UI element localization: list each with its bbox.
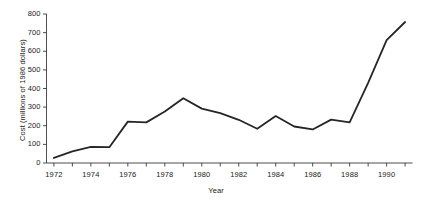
- x-tick-label: 1990: [376, 170, 398, 179]
- y-tick-label: 200: [28, 121, 41, 130]
- x-tick-label: 1974: [80, 170, 102, 179]
- x-tick-label: 1982: [228, 170, 250, 179]
- chart-container: 0100200300400500600700800197219741976197…: [0, 0, 432, 205]
- x-axis-title: Year: [0, 186, 432, 195]
- x-tick-label: 1978: [154, 170, 176, 179]
- y-tick-label: 100: [28, 139, 41, 148]
- y-tick-label: 600: [28, 46, 41, 55]
- y-axis-title: Cost (millions of 1986 dollars): [18, 39, 27, 141]
- x-tick-label: 1976: [117, 170, 139, 179]
- x-tick-label: 1988: [339, 170, 361, 179]
- y-tick-label: 500: [28, 65, 41, 74]
- y-tick-label: 700: [28, 28, 41, 37]
- x-tick-label: 1984: [265, 170, 287, 179]
- y-tick-label: 400: [28, 84, 41, 93]
- y-tick-label: 300: [28, 102, 41, 111]
- y-tick-label: 0: [36, 158, 40, 167]
- x-tick-label: 1980: [191, 170, 213, 179]
- y-tick-label: 800: [28, 9, 41, 18]
- x-tick-label: 1972: [43, 170, 65, 179]
- x-tick-label: 1986: [302, 170, 324, 179]
- data-series-line: [54, 22, 405, 158]
